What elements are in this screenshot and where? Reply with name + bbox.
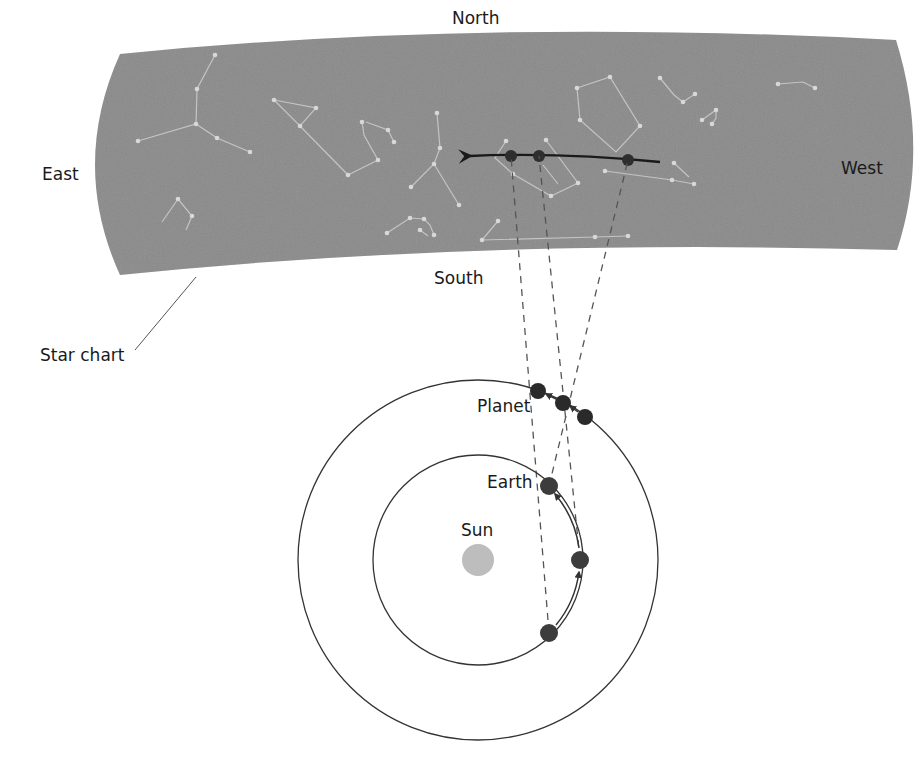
star-chart-label: Star chart bbox=[40, 345, 124, 365]
south-label: South bbox=[434, 268, 483, 288]
retrograde-diagram bbox=[0, 0, 924, 765]
sun-label: Sun bbox=[461, 520, 493, 540]
sun-icon bbox=[462, 544, 494, 576]
east-label: East bbox=[42, 164, 79, 184]
earth-label: Earth bbox=[487, 472, 533, 492]
planet-label: Planet bbox=[477, 396, 530, 416]
west-label: West bbox=[841, 158, 883, 178]
star-chart-pointer bbox=[135, 277, 196, 350]
north-label: North bbox=[452, 8, 500, 28]
star-chart-band bbox=[95, 32, 913, 275]
planet-positions bbox=[530, 383, 593, 425]
